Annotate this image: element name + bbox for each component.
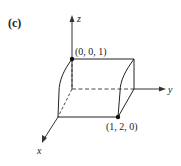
- left-curved-edge: [58, 59, 72, 117]
- y-arrowhead-icon: [159, 87, 166, 92]
- panel-label: (c): [8, 16, 21, 30]
- z-arrowhead-icon: [70, 15, 75, 22]
- x-axis: [44, 117, 58, 139]
- point-0-0-1: [70, 57, 74, 61]
- figure-panel-c: (c) z y x (0, 0, 1) (1, 2, 0): [0, 0, 181, 166]
- 3d-region-diagram: (c) z y x (0, 0, 1) (1, 2, 0): [0, 0, 181, 166]
- hidden-edge-x: [58, 89, 72, 117]
- right-curved-edge: [118, 59, 134, 117]
- z-axis-label: z: [76, 13, 81, 24]
- point-1-2-0: [116, 115, 120, 119]
- x-axis-label: x: [36, 145, 42, 156]
- y-axis-label: y: [167, 84, 173, 95]
- point-label-1-2-0: (1, 2, 0): [106, 121, 138, 133]
- point-label-0-0-1: (0, 0, 1): [75, 46, 107, 58]
